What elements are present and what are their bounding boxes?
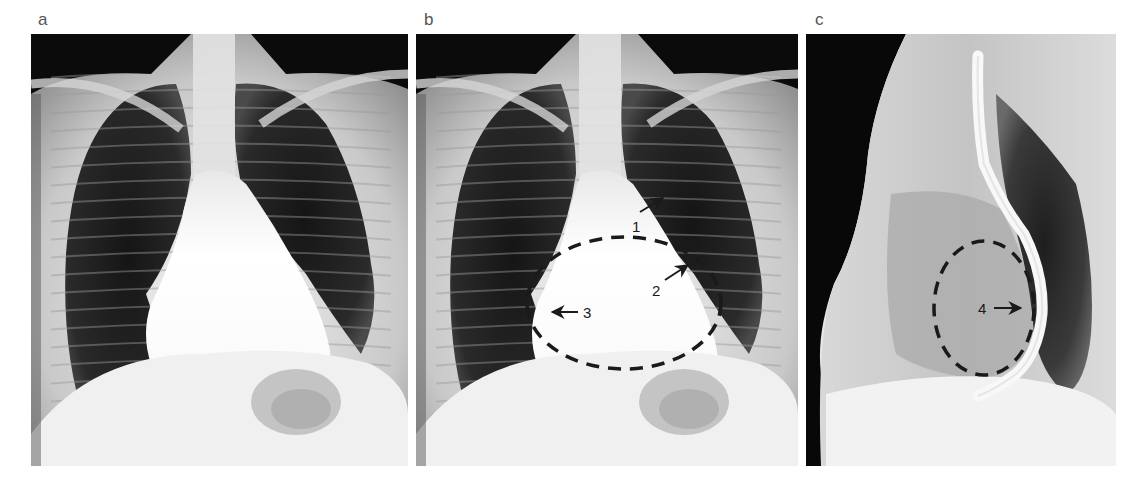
chest-xray-pa-annotated-image: 1 2 3: [416, 34, 798, 466]
xray-panel-b: 1 2 3: [416, 34, 798, 466]
panel-label-c: c: [815, 10, 824, 30]
panel-label-b: b: [424, 10, 433, 30]
annotation-label-2: 2: [652, 282, 660, 299]
xray-panel-c: 4: [806, 34, 1116, 466]
annotation-label-3: 3: [583, 304, 591, 321]
chest-xray-lateral-barium-image: 4: [806, 34, 1116, 466]
panel-label-a: a: [38, 10, 47, 30]
annotation-label-4: 4: [978, 300, 986, 317]
chest-xray-pa-image: [31, 34, 408, 466]
xray-panel-a: [31, 34, 408, 466]
annotation-label-1: 1: [632, 218, 640, 235]
